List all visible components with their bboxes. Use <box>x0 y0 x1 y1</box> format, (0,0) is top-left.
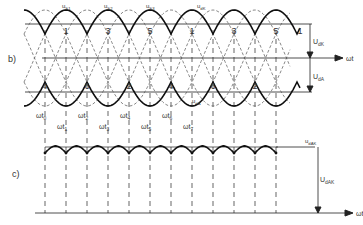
lower-envelope-curve <box>24 82 300 106</box>
bottom-segment-number: 6 <box>210 81 215 91</box>
ripple-cusp-dot <box>107 152 110 155</box>
ripple-peak-dot <box>117 145 119 147</box>
top-segment-number: 5 <box>147 26 152 36</box>
ripple-peak-dot <box>243 145 245 147</box>
ripple-cusp-dot <box>170 152 173 155</box>
top-segment-number: 1 <box>189 26 194 36</box>
top-segment-number: 1 <box>63 26 68 36</box>
dimension-arrow-udak <box>315 207 321 213</box>
dimension-label-udak: UdAK <box>320 176 335 185</box>
ripple-cusp-dot <box>191 152 194 155</box>
ripple-cusp-dot <box>86 152 89 155</box>
ripple-peak-dot <box>180 145 182 147</box>
dimension-label-uda: UdA <box>313 73 325 82</box>
ripple-peak-dot <box>96 145 98 147</box>
ripple-peak-dot <box>138 145 140 147</box>
bottom-segment-number: 2 <box>126 81 131 91</box>
ripple-cusp-dot <box>233 152 236 155</box>
wt-axis-arrow-b <box>335 55 343 61</box>
axis-label-wt-c: ωt <box>356 210 363 217</box>
ripple-cusp-dot <box>149 152 152 155</box>
ripple-peak-dot <box>222 145 224 147</box>
ripple-cusp-dot <box>275 152 278 155</box>
panel-label-b: b) <box>8 54 16 64</box>
ripple-cusp-dot <box>254 152 257 155</box>
lower-curve-label: udA <box>192 98 201 106</box>
ripple-peak-dot <box>201 145 203 147</box>
top-segment-number: 1 <box>297 26 302 36</box>
bottom-segment-number: 6 <box>84 81 89 91</box>
ripple-cusp-dot <box>65 152 68 155</box>
dimension-arrow-uda <box>307 86 313 92</box>
bottom-segment-number: 2 <box>252 81 257 91</box>
ripple-peak-dot <box>264 145 266 147</box>
phase-label-3: udK <box>197 3 206 11</box>
dimension-arrow-udk <box>307 52 313 58</box>
ripple-peak-dot <box>75 145 77 147</box>
wt-axis-arrow-c <box>345 210 353 216</box>
ripple-peak-dot <box>54 145 56 147</box>
top-segment-number: 3 <box>231 26 236 36</box>
top-segment-number: 3 <box>105 26 110 36</box>
ripple-cusp-dot <box>128 152 131 155</box>
bottom-segment-number: 4 <box>168 81 173 91</box>
axis-label-wt-b: ωt <box>346 55 353 62</box>
ripple-cusp-dot <box>44 152 47 155</box>
bottom-segment-number: 4 <box>42 81 47 91</box>
ripple-cusp-dot <box>212 152 215 155</box>
dimension-label-udk: UdK <box>313 38 325 47</box>
rectifier-voltage-diagram: b)c)uS1uS2uS3udK1351351462462udAUdKUdAUd… <box>0 0 363 225</box>
ripple-label-udak: udAK <box>305 138 316 146</box>
top-segment-number: 5 <box>273 26 278 36</box>
panel-label-c: c) <box>12 169 20 179</box>
ripple-peak-dot <box>159 145 161 147</box>
